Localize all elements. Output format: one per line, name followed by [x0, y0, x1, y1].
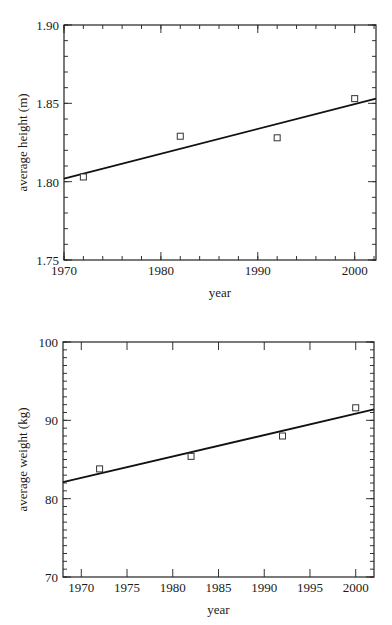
average-height-chart: 1970198019902000 1.751.801.851.90 year a… — [0, 0, 392, 312]
x-tick-label: 1985 — [206, 580, 232, 595]
x-tick-label: 1975 — [114, 580, 140, 595]
x-tick-label: 1990 — [251, 580, 277, 595]
data-point-marker — [97, 466, 103, 472]
y-tick-label: 1.80 — [36, 175, 59, 190]
x-tick-label: 1995 — [297, 580, 323, 595]
major-ticks — [64, 25, 376, 260]
minor-ticks — [64, 25, 376, 260]
data-point-marker — [80, 174, 86, 180]
x-tick-label: 2000 — [343, 580, 369, 595]
data-point-marker — [352, 96, 358, 102]
x-axis-title: year — [207, 602, 230, 617]
y-axis-title: average weight (kg) — [15, 408, 30, 512]
y-tick-labels: 708090100 — [39, 335, 59, 585]
y-tick-label: 70 — [45, 570, 58, 585]
data-point-marker — [280, 433, 286, 439]
minor-ticks — [63, 342, 374, 577]
data-point-marker — [274, 135, 280, 141]
y-tick-label: 1.75 — [36, 253, 59, 268]
y-axis-title: average height (m) — [15, 93, 30, 191]
x-tick-label: 1980 — [160, 580, 186, 595]
y-tick-label: 90 — [45, 413, 58, 428]
weight-plot-svg: 1970197519801985199019952000 708090100 y… — [0, 312, 392, 625]
y-tick-label: 1.85 — [36, 96, 59, 111]
data-point-marker — [353, 405, 359, 411]
data-points — [80, 96, 357, 180]
trend-line — [64, 99, 376, 179]
data-point-marker — [177, 133, 183, 139]
x-axis-title: year — [209, 285, 232, 300]
plot-frame — [63, 342, 374, 577]
y-tick-labels: 1.751.801.851.90 — [36, 18, 59, 268]
x-tick-label: 2000 — [342, 263, 368, 278]
x-tick-label: 1980 — [148, 263, 174, 278]
y-tick-label: 80 — [45, 492, 58, 507]
x-tick-labels: 1970198019902000 — [51, 263, 368, 278]
y-tick-label: 100 — [39, 335, 59, 350]
x-tick-label: 1970 — [68, 580, 94, 595]
plot-frame — [64, 25, 376, 260]
data-point-marker — [188, 453, 194, 459]
data-points — [97, 405, 359, 472]
average-weight-chart: 1970197519801985199019952000 708090100 y… — [0, 312, 392, 625]
x-tick-labels: 1970197519801985199019952000 — [68, 580, 368, 595]
height-plot-svg: 1970198019902000 1.751.801.851.90 year a… — [0, 0, 392, 312]
trend-line — [63, 409, 374, 482]
x-tick-label: 1990 — [245, 263, 271, 278]
y-tick-label: 1.90 — [36, 18, 59, 33]
major-ticks — [63, 342, 374, 577]
